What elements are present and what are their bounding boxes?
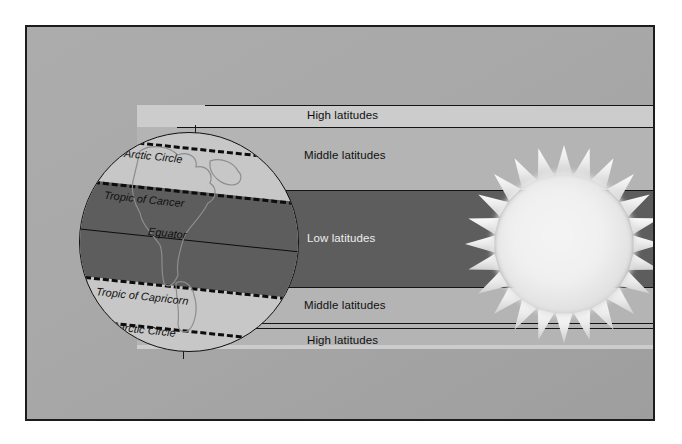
sun-core: [492, 172, 636, 316]
earth-globe: Arctic Circle Tropic of Cancer Equator T…: [79, 132, 299, 352]
label-middle-latitudes-south: Middle latitudes: [304, 299, 386, 311]
sun: [464, 144, 655, 344]
globe-sphere: Arctic Circle Tropic of Cancer Equator T…: [79, 132, 299, 352]
band-high-latitudes-north: [137, 105, 655, 127]
figure-canvas: High latitudes Middle latitudes Low lati…: [0, 0, 682, 444]
diagram-panel: High latitudes Middle latitudes Low lati…: [25, 25, 655, 421]
diagram-scene: High latitudes Middle latitudes Low lati…: [27, 27, 653, 419]
rule-north-high-top: [205, 105, 655, 106]
continent-outlines: [80, 133, 299, 352]
label-high-latitudes-south: High latitudes: [307, 334, 378, 346]
label-high-latitudes-north: High latitudes: [307, 109, 378, 121]
label-middle-latitudes-north: Middle latitudes: [304, 149, 386, 161]
rule-north-high-bottom: [177, 127, 655, 128]
label-low-latitudes: Low latitudes: [307, 232, 375, 244]
